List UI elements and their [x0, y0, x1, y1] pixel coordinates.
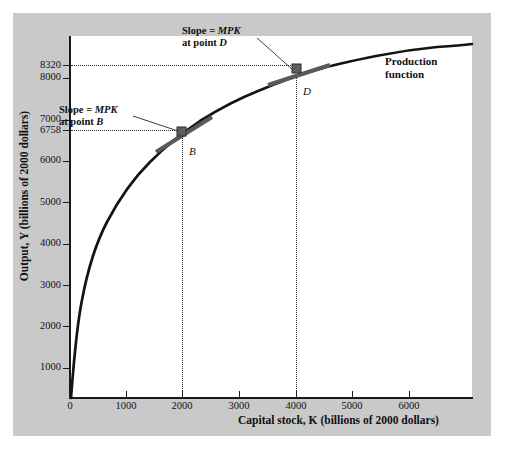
slope-b-atpoint: at point — [59, 116, 96, 127]
leader-line-d — [257, 38, 293, 70]
point-label-b: B — [189, 145, 196, 157]
slope-d-mpk: MPK — [218, 25, 241, 36]
figure-root: 8320 8000 7000 6758 6000 5000 4000 3000 … — [0, 0, 508, 454]
annotation-production-function: Production function — [385, 55, 437, 80]
production-function-line1: Production — [385, 55, 437, 68]
slope-b-text: Slope = — [59, 104, 95, 115]
slope-d-text: Slope = — [182, 25, 218, 36]
slope-b-point: B — [96, 116, 103, 127]
point-label-d: D — [303, 85, 311, 97]
production-function-curve — [71, 44, 472, 398]
annotation-slope-d: Slope = MPK at point D — [182, 25, 241, 49]
annotation-slope-b: Slope = MPK at point B — [59, 104, 118, 128]
slope-b-mpk: MPK — [95, 104, 118, 115]
data-point-d-marker — [292, 64, 301, 73]
production-function-line2: function — [385, 68, 437, 81]
slope-d-point: D — [219, 37, 227, 48]
data-point-b-marker — [177, 127, 186, 136]
slope-d-atpoint: at point — [182, 37, 219, 48]
leader-line-b — [133, 116, 178, 131]
